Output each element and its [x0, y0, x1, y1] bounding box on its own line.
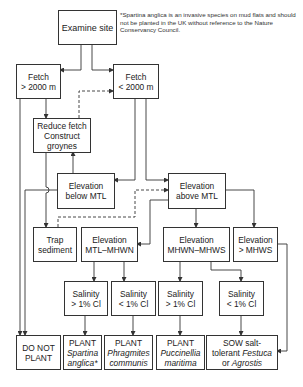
node-examine-site: Examine site: [58, 10, 117, 45]
node-label: > 1% Cl: [166, 299, 196, 309]
node-label: Spartina: [67, 348, 98, 358]
node-label: MHWN–MHWS: [167, 245, 225, 255]
node-label: Salinity: [167, 289, 194, 299]
node-label: Salinity: [228, 289, 255, 299]
arrow-elev-below-to-do-not-plant: [25, 190, 57, 335]
node-salinity-3: Salinity > 1% Cl: [158, 281, 203, 316]
node-label: SOW salt-: [223, 338, 261, 348]
node-label: Elevation: [69, 181, 103, 191]
arrow-examine-to-fetch-lt: [92, 44, 113, 70]
node-label: groynes: [47, 141, 77, 151]
node-label: maritima: [164, 358, 196, 368]
node-label: Elevation: [238, 235, 272, 245]
node-label: Trap: [47, 235, 64, 245]
node-label: above MTL: [176, 191, 218, 201]
node-label: or Agrostis: [222, 358, 262, 368]
node-label: < 2000 m: [118, 82, 153, 92]
flowchart-connectors: [0, 0, 303, 387]
node-label-part: tolerant: [212, 348, 242, 358]
arrow-fetch-lt-to-elev-above: [146, 98, 168, 180]
footnote: *Spartina anglica is an invasive species…: [120, 11, 300, 34]
node-label: Elevation: [179, 235, 213, 245]
arrow-mhwn-mhws-to-sal4: [211, 261, 241, 281]
node-label: Elevation: [180, 181, 214, 191]
node-label: below MTL: [66, 191, 107, 201]
node-label: Fetch: [28, 72, 49, 82]
node-label: communis: [109, 358, 147, 368]
node-label: < 1% Cl: [119, 299, 149, 309]
node-salinity-4: Salinity < 1% Cl: [219, 281, 264, 316]
node-label-part: Agrostis: [232, 358, 262, 368]
arrow-reduce-to-trap: [46, 152, 49, 227]
node-plant-puccinellia: PLANT Puccinellia maritima: [156, 335, 205, 370]
node-label-part: or: [222, 358, 232, 368]
node-label: < 1% Cl: [227, 299, 257, 309]
node-plant-spartina: PLANT Spartina anglica*: [63, 335, 102, 370]
node-label: > 1% Cl: [71, 299, 101, 309]
node-label: PLANT: [69, 338, 96, 348]
node-elevation-gt-mhws: Elevation > MHWS: [233, 227, 278, 262]
node-label: anglica*: [68, 358, 98, 368]
node-sow-salt-tolerant: SOW salt- tolerant Festuca or Agrostis: [206, 335, 278, 370]
node-reduce-fetch: Reduce fetch Construct groynes: [33, 118, 91, 153]
node-label: Fetch: [126, 72, 147, 82]
node-label: tolerant Festuca: [212, 348, 272, 358]
node-fetch-gt-2000: Fetch > 2000 m: [16, 64, 61, 99]
node-label-part: Festuca: [242, 348, 272, 358]
node-elevation-mhwn-mhws: Elevation MHWN–MHWS: [163, 227, 230, 262]
node-label: Construct: [44, 131, 80, 141]
arrow-elev-above-to-gt-mhws: [225, 190, 254, 227]
dashed-arrow-reduce-to-fetch-lt: [79, 91, 113, 118]
node-label: PLANT: [25, 353, 52, 363]
node-label: > 2000 m: [21, 82, 56, 92]
node-elevation-below-mtl: Elevation below MTL: [57, 173, 115, 209]
arrow-examine-to-fetch-gt: [60, 44, 81, 70]
node-label: Examine site: [62, 23, 114, 33]
node-elevation-mtl-mhwn: Elevation MTL–MHWN: [81, 227, 138, 262]
node-label: Phragmites: [107, 348, 149, 358]
node-plant-phragmites: PLANT Phragmites communis: [104, 335, 153, 370]
node-label: Salinity: [120, 289, 147, 299]
arrow-gt-mhws-to-sow: [277, 244, 287, 351]
node-label: DO NOT: [22, 343, 55, 353]
node-label: PLANT: [167, 338, 194, 348]
node-trap-sediment: Trap sediment: [33, 227, 77, 262]
node-do-not-plant: DO NOT PLANT: [16, 335, 61, 370]
node-salinity-1: Salinity > 1% Cl: [64, 281, 108, 316]
node-salinity-2: Salinity < 1% Cl: [111, 281, 156, 316]
node-label: PLANT: [115, 338, 142, 348]
node-fetch-lt-2000: Fetch < 2000 m: [113, 64, 159, 99]
node-label: MTL–MHWN: [85, 245, 133, 255]
node-label: Puccinellia: [160, 348, 200, 358]
node-label: Reduce fetch: [37, 121, 86, 131]
node-elevation-above-mtl: Elevation above MTL: [168, 173, 226, 209]
arrow-fetch-lt-to-elev-below: [114, 98, 135, 180]
node-label: Salinity: [73, 289, 100, 299]
node-label: sediment: [38, 245, 72, 255]
node-label: > MHWS: [239, 245, 273, 255]
node-label: Elevation: [92, 235, 126, 245]
